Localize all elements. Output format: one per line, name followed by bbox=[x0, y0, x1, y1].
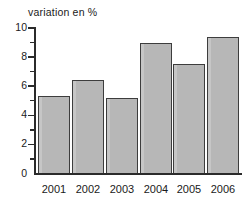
x-tick-label-2004: 2004 bbox=[140, 183, 172, 195]
plot-area: 10 8 6 4 2 0 bbox=[0, 0, 245, 211]
y-tick-minor-9 bbox=[30, 42, 35, 43]
bar-2004 bbox=[140, 43, 172, 173]
bar-highlight bbox=[141, 44, 144, 173]
y-tick-label-wrap-10: 10 bbox=[0, 22, 27, 33]
y-tick-major-4 bbox=[28, 115, 35, 117]
y-tick-major-2 bbox=[28, 144, 35, 146]
x-axis-line bbox=[34, 173, 242, 175]
y-tick-minor-7 bbox=[30, 71, 35, 72]
x-tick-label-2006: 2006 bbox=[207, 183, 239, 195]
x-tick-label-2003: 2003 bbox=[106, 183, 138, 195]
bar-highlight bbox=[208, 38, 211, 173]
bar-2003 bbox=[106, 98, 138, 173]
y-tick-label-2: 2 bbox=[3, 138, 27, 149]
bar-highlight bbox=[73, 81, 76, 173]
y-tick-minor-5 bbox=[30, 100, 35, 101]
x-tick-label-2005: 2005 bbox=[173, 183, 205, 195]
bar-2002 bbox=[72, 80, 104, 173]
bar-2005 bbox=[173, 64, 205, 174]
y-tick-major-10 bbox=[28, 27, 35, 29]
y-tick-label-wrap-2: 2 bbox=[0, 138, 27, 149]
bar-highlight bbox=[107, 99, 110, 173]
y-tick-minor-1 bbox=[30, 158, 35, 159]
bar-2001 bbox=[38, 96, 70, 173]
y-tick-label-4: 4 bbox=[3, 109, 27, 120]
bar-highlight bbox=[174, 65, 177, 174]
y-tick-label-wrap-6: 6 bbox=[0, 80, 27, 91]
y-tick-major-8 bbox=[28, 56, 35, 58]
bar-2006 bbox=[207, 37, 239, 173]
y-tick-label-10: 10 bbox=[3, 22, 27, 33]
y-tick-label-8: 8 bbox=[3, 51, 27, 62]
x-tick-label-2002: 2002 bbox=[72, 183, 104, 195]
y-tick-label-wrap-4: 4 bbox=[0, 109, 27, 120]
x-tick-label-2001: 2001 bbox=[38, 183, 70, 195]
y-tick-minor-3 bbox=[30, 129, 35, 130]
y-tick-major-6 bbox=[28, 85, 35, 87]
y-tick-label-wrap-8: 8 bbox=[0, 51, 27, 62]
y-tick-label-6: 6 bbox=[3, 80, 27, 91]
bar-chart: variation en % 10 8 6 4 2 0 bbox=[0, 0, 245, 211]
y-tick-label-wrap-0: 0 bbox=[0, 168, 27, 179]
y-tick-label-0: 0 bbox=[3, 168, 27, 179]
bar-highlight bbox=[39, 97, 42, 173]
